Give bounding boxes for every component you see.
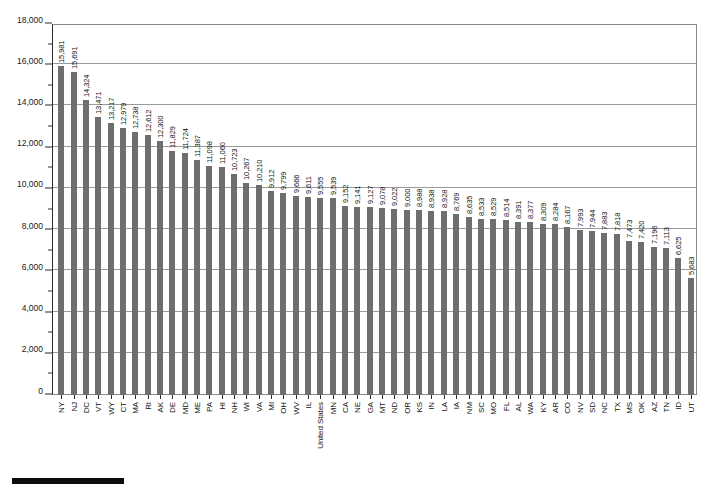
bar-slot[interactable]: 9,078 [376, 24, 388, 395]
bar[interactable]: 13,471 [95, 117, 101, 395]
bar-slot[interactable]: 11,724 [178, 24, 190, 395]
bar[interactable]: 9,127 [367, 207, 373, 395]
bar-slot[interactable]: 9,127 [364, 24, 376, 395]
bar-slot[interactable]: 9,666 [290, 24, 302, 395]
bar[interactable]: 9,912 [268, 191, 274, 395]
bar[interactable]: 7,944 [589, 231, 595, 395]
bar-slot[interactable]: 9,611 [302, 24, 314, 395]
bar[interactable]: 9,022 [391, 209, 397, 395]
bar-slot[interactable]: 12,979 [117, 24, 129, 395]
bar-slot[interactable]: 7,944 [586, 24, 598, 395]
bar[interactable]: 9,611 [305, 197, 311, 395]
bar[interactable]: 8,284 [552, 224, 558, 395]
bar[interactable]: 12,738 [132, 132, 138, 395]
bar[interactable]: 13,217 [108, 123, 114, 395]
bar[interactable]: 7,993 [577, 230, 583, 395]
bar-slot[interactable]: 5,683 [685, 24, 697, 395]
bar-slot[interactable]: 7,993 [573, 24, 585, 395]
bar[interactable]: 14,324 [83, 100, 89, 395]
bar-slot[interactable]: 8,938 [425, 24, 437, 395]
bar-slot[interactable]: 6,625 [672, 24, 684, 395]
bar[interactable]: 8,635 [466, 217, 472, 395]
bar[interactable]: 8,167 [564, 227, 570, 395]
bar[interactable]: 8,377 [527, 222, 533, 395]
bar[interactable]: 9,555 [317, 198, 323, 395]
bar[interactable]: 10,210 [256, 185, 262, 395]
bar-slot[interactable]: 8,391 [512, 24, 524, 395]
bar-slot[interactable]: 10,723 [228, 24, 240, 395]
bar-slot[interactable]: 8,533 [475, 24, 487, 395]
bar-slot[interactable]: 12,738 [129, 24, 141, 395]
bar[interactable]: 10,267 [243, 183, 249, 395]
bar[interactable]: 11,060 [219, 167, 225, 395]
bar[interactable]: 8,529 [490, 219, 496, 395]
bar[interactable]: 9,141 [354, 207, 360, 395]
bar-slot[interactable]: 7,473 [623, 24, 635, 395]
bar-slot[interactable]: 13,471 [92, 24, 104, 395]
bar[interactable]: 10,723 [231, 174, 237, 395]
bar-slot[interactable]: 8,167 [561, 24, 573, 395]
bar-slot[interactable]: 7,883 [598, 24, 610, 395]
bar-slot[interactable]: 7,818 [610, 24, 622, 395]
bar[interactable]: 9,539 [330, 198, 336, 395]
bar-slot[interactable]: 10,267 [240, 24, 252, 395]
bar-slot[interactable]: 15,691 [67, 24, 79, 395]
bar[interactable]: 8,988 [416, 210, 422, 395]
bar[interactable]: 15,691 [71, 72, 77, 395]
bar-slot[interactable]: 9,555 [314, 24, 326, 395]
bar-slot[interactable]: 13,217 [104, 24, 116, 395]
bar-slot[interactable]: 11,098 [203, 24, 215, 395]
bar-slot[interactable]: 12,300 [154, 24, 166, 395]
bar-slot[interactable]: 8,988 [413, 24, 425, 395]
bar[interactable]: 12,612 [145, 135, 151, 395]
bar-slot[interactable]: 11,829 [166, 24, 178, 395]
bar[interactable]: 11,098 [206, 166, 212, 395]
bar[interactable]: 8,938 [428, 211, 434, 395]
bar[interactable]: 8,309 [540, 224, 546, 395]
bar[interactable]: 9,799 [280, 193, 286, 395]
bar-slot[interactable]: 11,387 [191, 24, 203, 395]
bar-slot[interactable]: 9,152 [339, 24, 351, 395]
bar[interactable]: 5,683 [688, 278, 694, 395]
bar-slot[interactable]: 11,060 [215, 24, 227, 395]
bar[interactable]: 11,829 [169, 151, 175, 395]
bar-slot[interactable]: 7,196 [648, 24, 660, 395]
bar-slot[interactable]: 8,635 [462, 24, 474, 395]
bar-slot[interactable]: 8,284 [549, 24, 561, 395]
bar-slot[interactable]: 7,420 [635, 24, 647, 395]
bar[interactable]: 7,473 [626, 241, 632, 395]
bar[interactable]: 8,769 [453, 214, 459, 395]
bar[interactable]: 6,625 [675, 258, 681, 395]
bar[interactable]: 15,981 [58, 66, 64, 395]
bar-slot[interactable]: 9,000 [401, 24, 413, 395]
bar[interactable]: 8,533 [478, 219, 484, 395]
bar-slot[interactable]: 8,529 [487, 24, 499, 395]
bar[interactable]: 12,979 [120, 128, 126, 396]
bar[interactable]: 9,000 [404, 210, 410, 396]
bar-slot[interactable]: 9,799 [277, 24, 289, 395]
bar[interactable]: 9,666 [293, 196, 299, 395]
bar-slot[interactable]: 12,612 [141, 24, 153, 395]
bar-slot[interactable]: 8,769 [450, 24, 462, 395]
bar[interactable]: 7,883 [601, 233, 607, 395]
bar[interactable]: 7,113 [663, 248, 669, 395]
bar-slot[interactable]: 14,324 [80, 24, 92, 395]
bar-slot[interactable]: 9,912 [265, 24, 277, 395]
bar-slot[interactable]: 7,113 [660, 24, 672, 395]
bar[interactable]: 12,300 [157, 141, 163, 395]
bar[interactable]: 8,928 [441, 211, 447, 395]
bar[interactable]: 7,196 [651, 247, 657, 395]
bar-slot[interactable]: 8,309 [536, 24, 548, 395]
bar[interactable]: 9,078 [379, 208, 385, 395]
bar[interactable]: 7,420 [638, 242, 644, 395]
bar-slot[interactable]: 9,539 [327, 24, 339, 395]
bar-slot[interactable]: 15,981 [55, 24, 67, 395]
bar[interactable]: 11,724 [182, 153, 188, 395]
bar[interactable]: 8,514 [503, 220, 509, 395]
bar-slot[interactable]: 8,514 [499, 24, 511, 395]
bar-slot[interactable]: 8,928 [438, 24, 450, 395]
bar[interactable]: 8,391 [515, 222, 521, 395]
bar[interactable]: 11,387 [194, 160, 200, 395]
bar[interactable]: 7,818 [614, 234, 620, 395]
bar-slot[interactable]: 9,141 [351, 24, 363, 395]
